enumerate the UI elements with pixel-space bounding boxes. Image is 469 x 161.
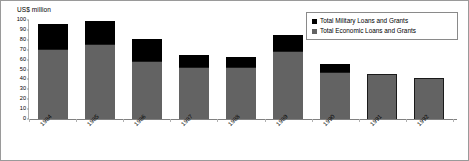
y-axis-tick-label: 10 — [20, 106, 26, 112]
bar-segment-military-1987 — [179, 55, 209, 67]
bar-segment-military-1990 — [320, 64, 350, 73]
bar-segment-economic-1985 — [85, 44, 115, 119]
x-axis-tick-mark — [123, 119, 124, 122]
bar-1987[interactable] — [179, 55, 209, 119]
bar-segment-military-1986 — [132, 39, 162, 61]
x-axis-tick-mark — [312, 119, 313, 122]
bar-1984[interactable] — [38, 24, 68, 119]
bar-segment-military-1984 — [38, 24, 68, 49]
bar-1986[interactable] — [132, 39, 162, 119]
y-axis-tick-mark — [27, 20, 29, 21]
y-axis-tick-label: 0 — [23, 116, 26, 122]
y-axis-tick-label: 20 — [20, 96, 26, 102]
x-axis-tick-mark — [170, 119, 171, 122]
bar-1989[interactable] — [273, 35, 303, 119]
y-axis-tick-label: 70 — [20, 47, 26, 53]
y-axis-tick-mark — [27, 99, 29, 100]
bar-segment-military-1989 — [273, 35, 303, 51]
bar-segment-economic-1987 — [179, 67, 209, 119]
x-axis-tick-mark — [406, 119, 407, 122]
bar-1992[interactable] — [414, 78, 444, 119]
y-axis-tick-mark — [27, 89, 29, 90]
y-axis-tick-label: 100 — [17, 17, 26, 23]
bar-segment-economic-1992 — [414, 78, 444, 119]
y-axis-tick-mark — [27, 39, 29, 40]
bar-segment-economic-1989 — [273, 51, 303, 119]
y-axis-tick-mark — [27, 69, 29, 70]
y-axis-tick-mark — [27, 59, 29, 60]
bar-segment-military-1985 — [85, 21, 115, 44]
x-axis-tick-mark — [453, 119, 454, 122]
bar-1990[interactable] — [320, 64, 350, 119]
bar-segment-economic-1990 — [320, 72, 350, 119]
y-axis-tick-mark — [27, 109, 29, 110]
legend-swatch-icon — [312, 29, 317, 34]
x-axis-tick-mark — [359, 119, 360, 122]
bar-1985[interactable] — [85, 21, 115, 119]
chart-legend: Total Military Loans and GrantsTotal Eco… — [306, 12, 458, 40]
x-axis-tick-mark — [76, 119, 77, 122]
chart-container: US$ million 0102030405060708090100 Total… — [0, 0, 469, 161]
bar-segment-economic-1986 — [132, 61, 162, 119]
legend-label: Total Military Loans and Grants — [320, 18, 408, 24]
y-axis-tick-mark — [27, 49, 29, 50]
y-axis-tick-label: 40 — [20, 77, 26, 83]
legend-label: Total Economic Loans and Grants — [320, 28, 416, 34]
y-axis-tick-mark — [27, 79, 29, 80]
y-axis-tick-label: 80 — [20, 37, 26, 43]
x-axis-tick-mark — [217, 119, 218, 122]
bar-segment-economic-1984 — [38, 49, 68, 119]
bar-1988[interactable] — [226, 57, 256, 119]
x-axis-tick-mark — [265, 119, 266, 122]
y-axis-title: US$ million — [17, 6, 51, 13]
y-axis-tick-mark — [27, 29, 29, 30]
legend-swatch-icon — [312, 19, 317, 24]
y-axis-tick-label: 30 — [20, 87, 26, 93]
y-axis-tick-label: 50 — [20, 67, 26, 73]
bar-segment-economic-1991 — [367, 74, 397, 119]
bar-segment-military-1988 — [226, 57, 256, 67]
legend-item-1[interactable]: Total Economic Loans and Grants — [312, 26, 453, 36]
legend-item-0[interactable]: Total Military Loans and Grants — [312, 16, 453, 26]
bar-1991[interactable] — [367, 74, 397, 119]
bar-segment-economic-1988 — [226, 67, 256, 119]
y-axis-tick-label: 60 — [20, 57, 26, 63]
y-axis-tick-label: 90 — [20, 27, 26, 33]
x-axis-tick-mark — [29, 119, 30, 122]
